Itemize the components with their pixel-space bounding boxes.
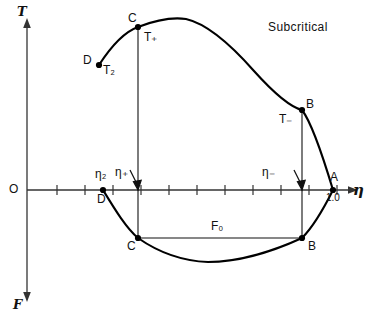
point-b-lower xyxy=(299,235,305,241)
label-one-point-zero: 1.0 xyxy=(326,193,340,203)
label-eta-plus: η₊ xyxy=(115,166,128,178)
label-t2: T₂ xyxy=(103,64,115,76)
axis-label-f: F xyxy=(13,298,22,311)
label-eta-2: η₂ xyxy=(95,168,106,180)
axis-label-eta: η xyxy=(353,183,364,198)
subcritical-phase-diagram xyxy=(0,0,366,319)
label-point-d-upper: D xyxy=(83,54,92,66)
label-point-c-lower: C xyxy=(127,240,136,252)
vertical-axis xyxy=(23,18,31,302)
subcritical-annotation: Subcritical xyxy=(268,21,328,33)
label-point-d-axis: D xyxy=(97,193,106,205)
upper-branch-curve xyxy=(99,18,333,190)
marked-points xyxy=(96,24,336,241)
label-point-b-lower: B xyxy=(308,240,316,252)
eta-minus-pointer xyxy=(294,170,305,190)
label-point-c-upper: C xyxy=(128,12,137,24)
axis-label-t: T xyxy=(17,5,27,18)
label-point-b-upper: B xyxy=(306,98,314,110)
label-eta-minus: η₋ xyxy=(262,166,275,178)
point-b-upper xyxy=(299,107,305,113)
label-point-a: A xyxy=(330,171,338,183)
eta-plus-pointer xyxy=(130,170,141,190)
label-f0: F₀ xyxy=(211,220,223,232)
origin-label: O xyxy=(9,183,18,195)
point-d-upper xyxy=(96,62,102,68)
horizontal-axis xyxy=(27,186,358,194)
label-t-minus: T₋ xyxy=(279,113,292,125)
label-t-plus: T₊ xyxy=(144,31,157,43)
